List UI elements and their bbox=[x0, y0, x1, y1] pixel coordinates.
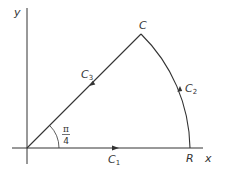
path-c2 bbox=[141, 34, 190, 148]
y-axis-label: y bbox=[13, 6, 21, 19]
curve-c2-label: C2 bbox=[185, 82, 197, 96]
curve-c3-label: C3 bbox=[81, 68, 93, 82]
path-c3 bbox=[27, 34, 141, 148]
curve-c1-label: C1 bbox=[108, 153, 120, 167]
angle-numerator: π bbox=[63, 124, 69, 134]
contour-diagram: y x C R C1 C2 C3 π 4 bbox=[0, 0, 225, 172]
arrow-c1-icon bbox=[112, 146, 119, 151]
point-c-label: C bbox=[139, 19, 147, 32]
x-axis-label: x bbox=[204, 152, 212, 165]
angle-denominator: 4 bbox=[63, 136, 69, 146]
angle-arc bbox=[50, 125, 59, 148]
point-r-label: R bbox=[186, 152, 194, 165]
